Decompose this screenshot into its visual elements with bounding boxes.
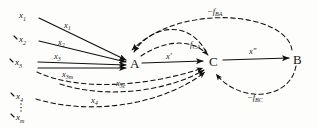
node-label-C: C bbox=[209, 54, 218, 69]
source-x4-sub: 4 bbox=[20, 97, 23, 103]
edge-x3c-to-C bbox=[60, 70, 204, 92]
edge-label-x4: x4 bbox=[90, 95, 98, 106]
edge-label-x-prime: x' bbox=[165, 51, 172, 61]
edge-label-x-double-prime: x″ bbox=[248, 46, 257, 56]
svg-text:x4: x4 bbox=[15, 91, 23, 103]
vertical-ellipsis-icon bbox=[20, 103, 21, 111]
source-label-xm: xm bbox=[15, 112, 25, 124]
edge-x3-to-A bbox=[38, 62, 126, 65]
svg-text:x2: x2 bbox=[18, 34, 26, 46]
source-x1-sub: 1 bbox=[23, 16, 26, 22]
source-x3-sub: 3 bbox=[18, 63, 22, 69]
edge-label-fca: fCA bbox=[190, 39, 200, 50]
edge-A-to-C bbox=[142, 61, 203, 63]
edge-C-to-B bbox=[223, 58, 289, 60]
source-label-x2: x2 bbox=[18, 34, 26, 46]
svg-text:xm: xm bbox=[15, 112, 25, 124]
signal-flow-diagram: A C B x1 x2 x3 x4 xm bbox=[0, 0, 318, 128]
svg-text:x1: x1 bbox=[18, 10, 26, 22]
node-label-A: A bbox=[130, 56, 140, 71]
svg-text:x3: x3 bbox=[14, 57, 22, 69]
source-label-x1: x1 bbox=[18, 10, 26, 22]
source-label-x4: x4 bbox=[15, 91, 23, 103]
node-label-B: B bbox=[293, 52, 302, 67]
edge-x2-to-A bbox=[39, 41, 126, 62]
source-tick-marks bbox=[10, 36, 17, 117]
source-label-x3: x3 bbox=[14, 57, 22, 69]
edge-label-x1: x1 bbox=[63, 20, 71, 31]
edge-label-x3m: x3m bbox=[61, 69, 74, 80]
diagram-canvas: A C B x1 x2 x3 x4 xm bbox=[0, 0, 318, 128]
edge-label-fba: −fBA bbox=[207, 6, 223, 17]
source-x2-sub: 2 bbox=[23, 40, 26, 46]
edge-label-x2: x2 bbox=[57, 37, 65, 48]
source-xm-sub: m bbox=[20, 118, 25, 124]
edge-feedback-fba-B-to-A bbox=[132, 18, 292, 50]
edge-feedback-fbc-B-to-C bbox=[216, 66, 296, 94]
edge-x1-to-A bbox=[39, 18, 126, 60]
edge-label-x3c: x3c bbox=[115, 78, 126, 89]
edge-label-x3: x3 bbox=[53, 51, 61, 62]
